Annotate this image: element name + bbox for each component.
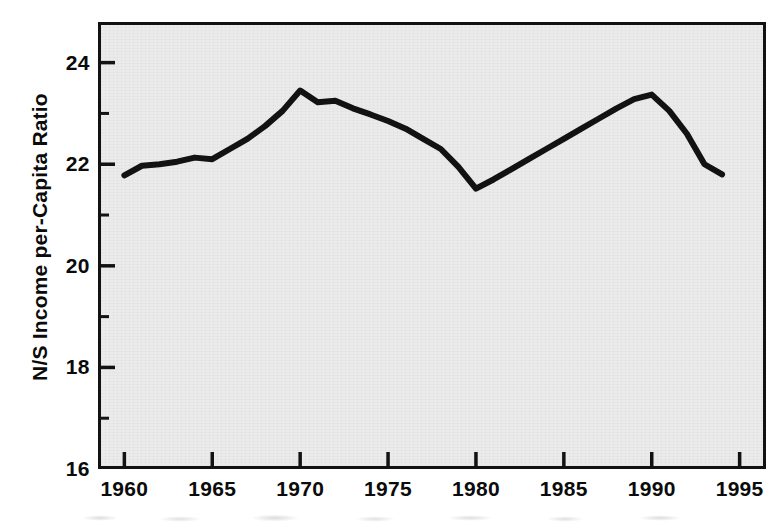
scan-artifact <box>60 512 760 524</box>
y-axis-tick-label: 16 <box>46 458 90 479</box>
x-axis-tick-label: 1975 <box>348 478 428 499</box>
x-axis-tick-label: 1980 <box>436 478 516 499</box>
x-axis-tick-label: 1960 <box>84 478 164 499</box>
x-axis-ticks <box>124 452 739 469</box>
y-axis-tick-label: 24 <box>46 52 90 73</box>
x-axis-tick-label: 1965 <box>172 478 252 499</box>
line-series-path <box>124 91 722 189</box>
y-axis-title-container: N/S Income per-Capita Ratio <box>0 0 40 526</box>
y-axis-tick-labels: 1618202224 <box>36 0 90 526</box>
y-axis-tick-label: 22 <box>46 153 90 174</box>
x-axis-tick-labels: 19601965197019751980198519901995 <box>0 478 784 508</box>
chart-data-layer <box>98 22 766 469</box>
x-axis-tick-label: 1985 <box>524 478 604 499</box>
x-axis-tick-label: 1995 <box>700 478 780 499</box>
x-axis-tick-label: 1990 <box>612 478 692 499</box>
y-axis-tick-label: 18 <box>46 356 90 377</box>
y-axis-tick-label: 20 <box>46 255 90 276</box>
chart-figure: N/S Income per-Capita Ratio 1618202224 1… <box>0 0 784 526</box>
x-axis-tick-label: 1970 <box>260 478 340 499</box>
